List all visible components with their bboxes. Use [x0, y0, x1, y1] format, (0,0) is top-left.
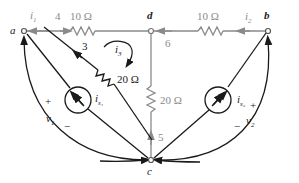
v2-plus-sign: +: [250, 100, 256, 111]
source-label-is1: is₁: [95, 93, 103, 107]
current-label-i2: i2: [245, 11, 252, 25]
branch-label-3: 3: [82, 41, 88, 52]
v1-plus-sign: +: [45, 96, 51, 107]
v1-label: v1: [46, 113, 54, 127]
branch-6-db: [150, 27, 268, 35]
node-label-a: a: [10, 25, 16, 36]
resistor-label-db: 10 Ω: [197, 11, 219, 22]
node-c: [149, 158, 154, 163]
node-b: [266, 29, 271, 34]
circuit-diagram: [0, 0, 299, 183]
current-label-i1: i1: [30, 10, 37, 24]
source-label-is2: is₂: [237, 94, 245, 108]
resistor-label-ad: 10 Ω: [70, 11, 92, 22]
v2-minus-sign: −: [234, 121, 240, 132]
v2-label: v2: [246, 115, 254, 129]
node-a: [22, 29, 27, 34]
node-label-d: d: [147, 10, 153, 21]
is1-arrow-icon: [75, 96, 83, 105]
resistor-label-dc: 20 Ω: [160, 95, 182, 106]
branch-label-5: 5: [158, 132, 164, 143]
v1-arc: [24, 40, 146, 161]
node-label-b: b: [264, 10, 270, 21]
is2-arrow-icon: [213, 96, 221, 105]
resistor-label-ac: 20 Ω: [117, 74, 139, 85]
node-label-c: c: [147, 166, 152, 177]
branch-label-6: 6: [165, 38, 171, 49]
branch-label-4: 4: [55, 11, 61, 22]
node-d: [149, 29, 154, 34]
v1-minus-sign: −: [64, 121, 70, 132]
current-label-i3: i3: [115, 44, 122, 58]
branch-4-ad: [26, 27, 148, 35]
